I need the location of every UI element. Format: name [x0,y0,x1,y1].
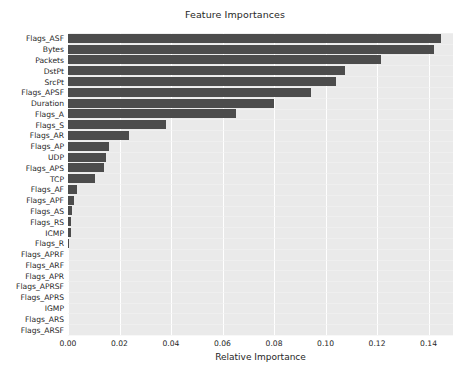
x-axis-tick-label: 0.14 [420,339,437,348]
x-axis-tick-label: 0.02 [111,339,128,348]
bar [68,109,236,118]
y-axis-tick-label: Flags_R [0,239,64,248]
bar [68,153,106,162]
gridline-y [68,335,453,336]
y-axis-tick-label: Flags_APRF [0,250,64,259]
x-axis-tick-label: 0.06 [214,339,231,348]
y-axis-tick-label: Flags_APRS [0,293,64,302]
x-axis-tick-label: 0.10 [317,339,334,348]
x-axis-tick-label: 0.00 [60,339,77,348]
y-axis-tick-label: Flags_AS [0,206,64,215]
bar [68,239,69,248]
bar [68,66,345,75]
y-axis-tick-label: Bytes [0,45,64,54]
bar [68,131,129,140]
y-axis-tick-label: Flags_ASF [0,34,64,43]
bar [68,45,434,54]
plot-area [68,33,453,335]
bar [68,88,311,97]
bar [68,34,441,43]
y-axis-labels: Flags_ASFBytesPacketsDstPtSrcPtFlags_APS… [0,33,64,335]
bar [68,185,77,194]
y-axis-tick-label: Duration [0,99,64,108]
y-axis-tick-label: Flags_ARSF [0,325,64,334]
y-axis-tick-label: Flags_APRSF [0,282,64,291]
y-axis-tick-label: Flags_APSF [0,88,64,97]
chart-title: Feature Importances [0,9,470,20]
x-axis-tick-label: 0.12 [369,339,386,348]
y-axis-tick-label: UDP [0,153,64,162]
y-axis-tick-label: SrcPt [0,77,64,86]
y-axis-tick-label: Flags_APS [0,163,64,172]
bar [68,77,336,86]
y-axis-tick-label: IGMP [0,304,64,313]
bar [68,99,274,108]
bar [68,55,381,64]
bar-series [68,33,453,335]
y-axis-tick-label: Flags_AF [0,185,64,194]
x-axis-tick-label: 0.08 [266,339,283,348]
x-axis-tick-label: 0.04 [163,339,180,348]
y-axis-tick-label: ICMP [0,228,64,237]
bar [68,163,104,172]
bar [68,174,95,183]
feature-importances-chart: Feature Importances Flags_ASFBytesPacket… [0,0,470,385]
y-axis-tick-label: Flags_APR [0,271,64,280]
x-axis-title: Relative Importance [68,352,453,362]
y-axis-tick-label: Flags_S [0,120,64,129]
x-axis-tick-labels: 0.000.020.040.060.080.100.120.14 [0,339,470,353]
bar [68,120,166,129]
y-axis-tick-label: DstPt [0,66,64,75]
y-axis-tick-label: Flags_APF [0,196,64,205]
y-axis-tick-label: TCP [0,174,64,183]
y-axis-tick-label: Flags_AP [0,142,64,151]
y-axis-tick-label: Flags_AR [0,131,64,140]
bar [68,142,109,151]
bar [68,217,71,226]
y-axis-tick-label: Packets [0,55,64,64]
bar [68,206,72,215]
y-axis-tick-label: Flags_ARS [0,314,64,323]
bar [68,228,71,237]
y-axis-tick-label: Flags_A [0,109,64,118]
bar [68,196,74,205]
y-axis-tick-label: Flags_ARF [0,260,64,269]
y-axis-tick-label: Flags_RS [0,217,64,226]
